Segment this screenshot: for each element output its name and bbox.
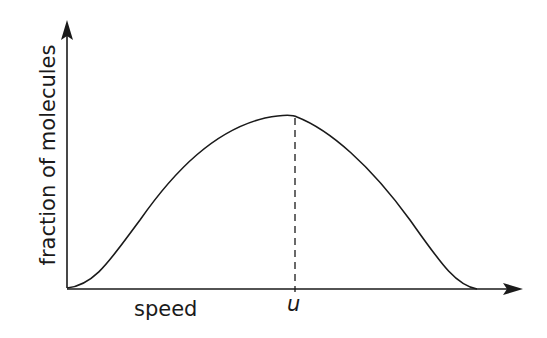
distribution-curve — [67, 115, 477, 289]
x-axis-label: speed — [134, 297, 197, 321]
distribution-plot — [0, 0, 547, 338]
y-axis-label: fraction of molecules — [36, 45, 60, 266]
diagram-canvas: fraction of molecules speed u — [0, 0, 547, 338]
peak-speed-label: u — [287, 292, 300, 316]
